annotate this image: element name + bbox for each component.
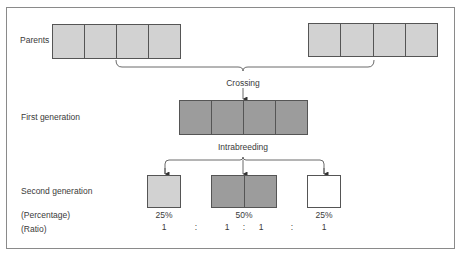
crossing-label: Crossing: [226, 78, 260, 88]
first-generation-chromosome-block: [179, 100, 308, 135]
ratio-separator: :: [195, 222, 197, 232]
percentage-value: 25%: [155, 210, 172, 220]
ratio-separator: :: [243, 222, 245, 232]
second-gen-cell: [308, 176, 340, 207]
ratio-value: 1: [225, 222, 230, 232]
second-gen-homozygous-white-block: [307, 175, 341, 208]
second-gen-heterozygous-block: [211, 175, 277, 208]
intrabreeding-label: Intrabreeding: [218, 142, 268, 152]
second-gen-homozygous-light-block: [147, 175, 181, 208]
percentage-value: 25%: [315, 210, 332, 220]
ratio-value: 1: [162, 222, 167, 232]
percentage-value: 50%: [235, 210, 252, 220]
first-generation-cell: [244, 101, 276, 134]
second-gen-cell: [148, 176, 180, 207]
first-generation-cell: [212, 101, 244, 134]
first-generation-cell: [180, 101, 212, 134]
second-gen-cell: [212, 176, 245, 207]
ratio-value: 1: [259, 222, 264, 232]
ratio-value: 1: [322, 222, 327, 232]
ratio-separator: :: [291, 222, 293, 232]
first-generation-cell: [276, 101, 307, 134]
second-gen-cell: [245, 176, 277, 207]
